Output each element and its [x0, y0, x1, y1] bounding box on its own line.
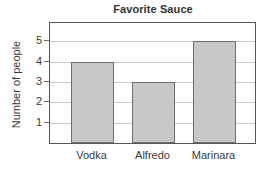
bar-vodka: [71, 62, 114, 143]
y-tick-label-4: 4: [22, 56, 42, 67]
bar-chart-figure: Favorite Sauce Number of people 5 4 3 2 …: [0, 0, 270, 171]
bar-alfredo: [132, 82, 175, 143]
chart-title: Favorite Sauce: [49, 2, 257, 16]
y-tick-label-3: 3: [22, 76, 42, 87]
x-tick-label-marinara: Marinara: [171, 149, 256, 162]
y-tick-label-5: 5: [22, 35, 42, 46]
y-tick-label-1: 1: [22, 117, 42, 128]
y-tick-label-2: 2: [22, 96, 42, 107]
y-axis-title: Number of people: [10, 25, 23, 145]
plot-area: [49, 22, 256, 144]
bar-marinara: [193, 41, 236, 143]
